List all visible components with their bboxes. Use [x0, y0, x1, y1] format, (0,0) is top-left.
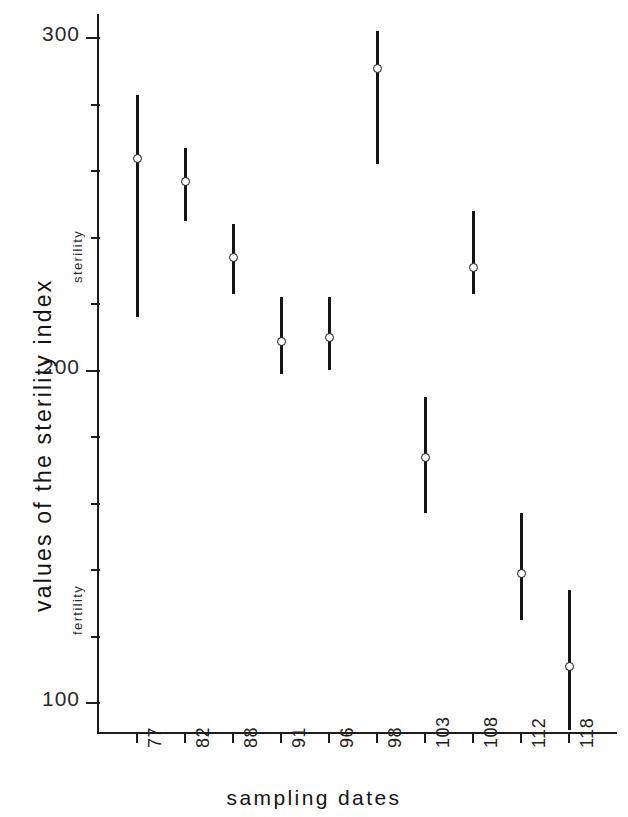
x-axis-title: sampling dates — [0, 786, 628, 810]
y-axis-tick-label: 300 — [18, 22, 80, 46]
y-axis-minor-tick — [91, 636, 100, 638]
data-marker — [229, 253, 238, 262]
y-axis-tick-label: 100 — [18, 687, 80, 711]
x-axis-tick-label: 91 — [289, 727, 310, 748]
data-marker — [517, 569, 526, 578]
x-axis-tick-label: 108 — [481, 716, 502, 748]
x-axis-tick — [136, 733, 138, 743]
y-axis-line — [97, 14, 99, 734]
data-marker — [421, 453, 430, 462]
error-bar — [280, 297, 283, 373]
x-axis-tick-label: 98 — [385, 727, 406, 748]
x-axis-tick-label: 103 — [433, 716, 454, 748]
error-bar — [136, 95, 139, 318]
x-axis-tick-label: 77 — [145, 727, 166, 748]
x-axis-tick — [280, 733, 282, 743]
data-marker — [133, 154, 142, 163]
y-axis-minor-tick — [91, 436, 100, 438]
y-axis-minor-tick — [91, 569, 100, 571]
y-axis-minor-tick — [91, 237, 100, 239]
x-axis-tick — [472, 733, 474, 743]
x-axis-tick — [376, 733, 378, 743]
x-axis-tick-label: 112 — [529, 718, 550, 748]
x-axis-tick-label: 88 — [241, 727, 262, 748]
y-axis-title: values of the sterility index — [30, 278, 57, 612]
x-axis-tick — [232, 733, 234, 743]
sterility-index-chart: 100200300778288919698103108112118 values… — [0, 0, 628, 817]
x-axis-tick — [424, 733, 426, 743]
x-axis-tick — [184, 733, 186, 743]
error-bar — [520, 513, 523, 619]
error-bar — [472, 211, 475, 294]
x-axis-tick-label: 96 — [337, 727, 358, 748]
y-axis-major-tick — [86, 370, 100, 372]
x-axis-tick — [328, 733, 330, 743]
data-marker — [373, 64, 382, 73]
y-axis-major-tick — [86, 702, 100, 704]
y-axis-minor-tick — [91, 104, 100, 106]
data-marker — [181, 177, 190, 186]
y-axis-minor-tick — [91, 303, 100, 305]
data-marker — [277, 337, 286, 346]
error-bar — [376, 31, 379, 164]
region-label-fertility: fertility — [70, 585, 85, 635]
y-axis-minor-tick — [91, 170, 100, 172]
data-marker — [469, 263, 478, 272]
error-bar — [568, 590, 571, 730]
data-marker — [565, 662, 574, 671]
x-axis-tick — [520, 733, 522, 743]
x-axis-tick-label: 82 — [193, 727, 214, 748]
y-axis-major-tick — [86, 37, 100, 39]
x-axis-tick-label: 118 — [577, 718, 598, 748]
x-axis-tick — [568, 733, 570, 743]
region-label-sterility: sterility — [70, 230, 85, 283]
y-axis-minor-tick — [91, 503, 100, 505]
data-marker — [325, 333, 334, 342]
